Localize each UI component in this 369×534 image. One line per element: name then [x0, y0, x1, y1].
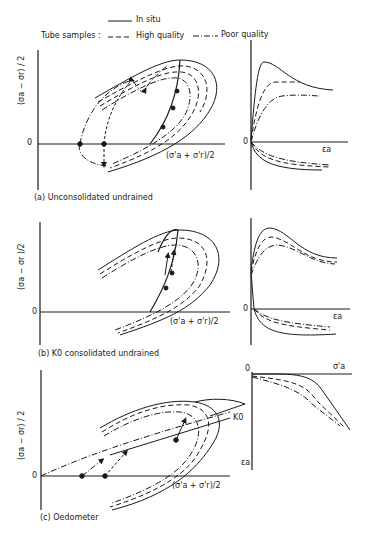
panel-c-strain-axis-label: εa	[241, 458, 250, 467]
panel-b-caption: (b) K0 consolidated undrained	[38, 349, 159, 358]
legend-high-quality: High quality	[136, 31, 184, 40]
panel-c-k0-label: K0	[233, 413, 243, 422]
panel-c-caption: (c) Oedometer	[40, 513, 98, 522]
panel-c-y-axis-label: (σa − σr) / 2	[17, 411, 26, 460]
panel-c-stress-axis-label: σ'a	[333, 362, 345, 371]
panel-b-origin-label: 0	[32, 307, 37, 316]
panel-b-stress-path	[40, 222, 230, 345]
panel-a-origin-label: 0	[27, 138, 32, 147]
panel-b-strain-plot	[251, 218, 350, 345]
panel-c-strain-plot	[252, 372, 352, 470]
panel-a-strain-origin: 0	[243, 137, 248, 146]
panel-a-strain-axis-label: εa	[322, 145, 331, 154]
panel-a-stress-path	[38, 50, 225, 190]
panel-c-x-axis-label: (σ'a + σ'r)/2	[172, 481, 221, 490]
panel-a-strain-plot	[251, 40, 348, 190]
legend-in-situ: In situ	[136, 15, 161, 24]
panel-b-strain-origin: 0	[243, 304, 248, 313]
panel-b-x-axis-label: (σ'a + σ'r)/2	[170, 317, 219, 326]
legend-tube-samples: Tube samples :	[41, 31, 101, 40]
legend-poor-quality: Poor quality	[221, 30, 269, 39]
panel-c-strain-origin: 0	[245, 364, 250, 373]
diagram-canvas	[0, 0, 369, 534]
panel-b-strain-axis-label: εa	[333, 312, 342, 321]
panel-a-caption: (a) Unconsolidated undrained	[34, 193, 153, 202]
panel-a-x-axis-label: (σ'a + σ'r)/2	[166, 151, 215, 160]
panel-b-y-axis-label: (σa − σr )/2	[17, 243, 26, 290]
panel-a-y-axis-label: (σa − σr) / 2	[17, 56, 26, 105]
panel-c-origin-label: 0	[32, 471, 37, 480]
